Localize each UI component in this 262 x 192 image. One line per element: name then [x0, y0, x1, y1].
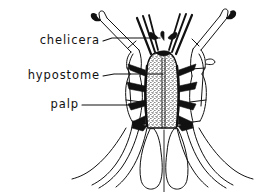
anatomical-drawing-svg: chelicera hypostome palp [0, 0, 262, 192]
hypostome [145, 51, 179, 128]
basis-capituli [92, 122, 233, 192]
label-chelicera: chelicera [40, 33, 100, 47]
tick-capitulum-figure: chelicera hypostome palp [0, 0, 262, 192]
right-palp [190, 9, 236, 122]
labels-group: chelicera hypostome palp [28, 33, 100, 111]
label-hypostome: hypostome [28, 68, 100, 82]
chelicerae [137, 14, 192, 54]
label-palp: palp [51, 97, 79, 111]
